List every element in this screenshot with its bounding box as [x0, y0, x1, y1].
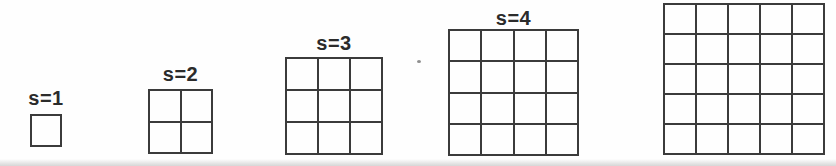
square-grid-s5 — [663, 3, 825, 155]
grid-label-s2: s=2 — [163, 64, 198, 84]
square-grid-s4 — [448, 29, 579, 156]
grid-cell — [546, 124, 578, 155]
grid-cell — [728, 4, 760, 34]
square-grid-s1-block: s=1 — [30, 114, 62, 147]
grid-cell — [664, 124, 696, 154]
grid-cell — [728, 34, 760, 64]
grid-cell — [181, 122, 213, 154]
grid-cell — [449, 30, 481, 61]
grid-cell — [350, 58, 382, 90]
ink-speck-artifact — [417, 60, 421, 63]
grid-cell — [760, 64, 792, 94]
grid-cell — [546, 30, 578, 61]
grid-cell — [696, 34, 728, 64]
grid-cell — [449, 124, 481, 155]
grid-cell — [696, 94, 728, 124]
square-grid-s3-block: s=3 — [285, 57, 383, 155]
square-grid-s3 — [285, 57, 383, 155]
grid-label-s4: s=4 — [496, 8, 531, 28]
scan-shadow-artifact — [0, 159, 836, 166]
grid-cell — [449, 61, 481, 92]
square-grid-s5-block — [663, 3, 825, 155]
grid-cell — [318, 122, 350, 154]
grid-cell — [546, 61, 578, 92]
grid-cell — [514, 124, 546, 155]
square-grid-s1 — [30, 114, 62, 147]
grid-cell — [481, 30, 513, 61]
grid-cell — [664, 34, 696, 64]
grid-cell — [481, 124, 513, 155]
grid-cell — [760, 4, 792, 34]
grid-cell — [286, 58, 318, 90]
grid-cell — [760, 124, 792, 154]
grid-cell — [481, 61, 513, 92]
grid-cell — [760, 94, 792, 124]
grid-cell — [350, 90, 382, 122]
grid-cell — [149, 122, 181, 154]
grid-cell — [664, 64, 696, 94]
grid-cell — [792, 34, 824, 64]
grid-cell — [449, 93, 481, 124]
grid-cell — [728, 94, 760, 124]
square-grid-s2 — [148, 89, 213, 154]
squares-diagram: s=1 s=2 s=3 s=4 — [0, 0, 836, 166]
grid-cell — [760, 34, 792, 64]
grid-cell — [350, 122, 382, 154]
grid-cell — [514, 93, 546, 124]
grid-cell — [728, 64, 760, 94]
grid-cell — [696, 64, 728, 94]
grid-cell — [664, 94, 696, 124]
grid-cell — [481, 93, 513, 124]
grid-cell — [181, 90, 213, 122]
grid-cell — [514, 61, 546, 92]
grid-cell — [286, 90, 318, 122]
grid-cell — [792, 94, 824, 124]
grid-cell — [792, 124, 824, 154]
grid-label-s1: s=1 — [28, 88, 63, 108]
grid-cell — [286, 122, 318, 154]
grid-cell — [149, 90, 181, 122]
grid-cell — [318, 90, 350, 122]
grid-cell — [792, 64, 824, 94]
square-grid-s2-block: s=2 — [148, 89, 213, 154]
grid-cell — [31, 115, 61, 146]
grid-cell — [696, 4, 728, 34]
grid-cell — [696, 124, 728, 154]
grid-cell — [514, 30, 546, 61]
grid-cell — [546, 93, 578, 124]
grid-cell — [664, 4, 696, 34]
grid-cell — [728, 124, 760, 154]
grid-cell — [792, 4, 824, 34]
square-grid-s4-block: s=4 — [448, 29, 579, 156]
grid-label-s3: s=3 — [316, 33, 351, 53]
grid-cell — [318, 58, 350, 90]
